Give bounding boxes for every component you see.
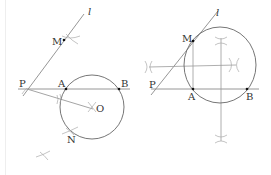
- diagram-canvas: l M P A B O N: [0, 0, 271, 175]
- left-label-m: M: [52, 36, 62, 47]
- left-point-b: [118, 88, 121, 91]
- geometry-construction-svg: l M P A B O N: [0, 0, 271, 175]
- right-label-b: B: [246, 91, 253, 102]
- right-line-l: [151, 11, 218, 95]
- left-point-m: [63, 39, 66, 42]
- left-label-p: P: [19, 78, 26, 89]
- left-line-l: [23, 14, 84, 96]
- right-figure: l M P A B: [145, 7, 259, 143]
- left-label-b: B: [121, 78, 128, 89]
- left-label-n: N: [67, 134, 76, 145]
- left-label-a: A: [57, 78, 66, 89]
- right-label-m: M: [182, 33, 192, 44]
- left-arc-mark-o: [88, 102, 96, 112]
- right-point-a: [192, 88, 195, 91]
- right-label-l: l: [216, 7, 219, 18]
- left-label-o: O: [96, 103, 104, 114]
- left-figure: l M P A B O N: [18, 6, 130, 160]
- right-label-a: A: [187, 91, 196, 102]
- right-line-horizontal-construction: [149, 65, 236, 67]
- left-label-l: l: [88, 6, 91, 17]
- left-arc-mark-bottom: [36, 151, 50, 160]
- right-label-p: P: [149, 79, 156, 90]
- right-point-b: [246, 88, 249, 91]
